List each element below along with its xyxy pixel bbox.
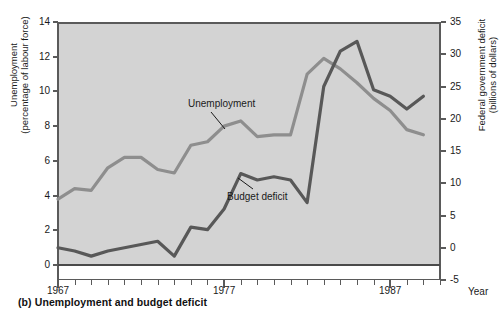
- series-plot: [0, 0, 504, 314]
- series-label-unemployment: Unemployment: [188, 98, 255, 109]
- figure-caption: (b) Unemployment and budget deficit: [18, 296, 207, 308]
- leader-line-deficit: [238, 178, 253, 189]
- line-budget-deficit: [58, 41, 423, 256]
- figure-unemployment-and-budget-deficit: Unemployment (percentage of labour force…: [0, 0, 504, 314]
- leader-line-unemployment: [211, 112, 225, 129]
- series-label-budget-deficit: Budget deficit: [227, 191, 288, 202]
